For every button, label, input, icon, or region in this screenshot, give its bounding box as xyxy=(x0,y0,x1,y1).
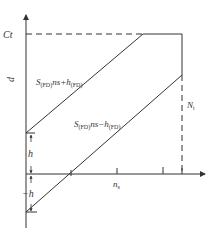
upper-line-label: S(FD)ns+h(FD) xyxy=(36,77,82,89)
ct-label: Ct xyxy=(3,29,13,40)
h-label: h xyxy=(28,148,33,159)
diagram-canvas: Ct d S(FD)ns+h(FD) S(FD)ns−h(FD) h −h ns… xyxy=(0,0,215,237)
y-axis-label: d xyxy=(5,76,16,82)
neg-h-label: −h xyxy=(22,188,34,199)
ns-label: ns xyxy=(113,179,121,190)
lower-line-label: S(FD)ns−h(FD) xyxy=(74,119,120,131)
lower-diagonal-line xyxy=(26,75,182,212)
nt-label: Nt xyxy=(186,100,195,111)
